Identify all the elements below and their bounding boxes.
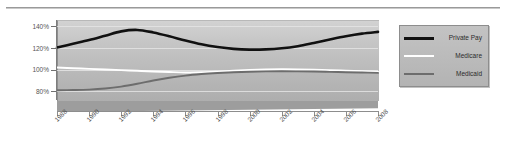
top-divider-rule [6,7,500,9]
chart-screenshot: 140%120%100%80% 198819901992199419961998… [0,0,506,150]
y-axis-tick-label: 120% [3,45,49,52]
private-pay-swatch [404,37,434,40]
legend-item-medicare: Medicare [404,50,484,62]
series-line-private-pay [57,30,378,50]
y-axis-tick-label: 140% [3,23,49,30]
y-axis-tick [51,48,56,49]
y-axis-tick-label: 80% [3,88,49,95]
x-axis-tick-label: 1988 [53,108,68,123]
plot-area [57,20,378,100]
chart-legend: Private Pay Medicare Medicaid [399,25,489,87]
line-chart-figure: 140%120%100%80% 198819901992199419961998… [0,10,506,150]
y-axis-tick [51,91,56,92]
legend-item-private-pay: Private Pay [404,32,484,44]
medicare-swatch [404,55,434,57]
y-axis [56,20,57,100]
legend-item-medicaid: Medicaid [404,68,484,80]
legend-label-private-pay: Private Pay [434,34,484,42]
legend-label-medicare: Medicare [434,52,484,60]
series-line-medicaid [57,71,378,90]
y-axis-labels: 140%120%100%80% [0,20,49,100]
medicaid-swatch [404,73,434,75]
y-axis-tick [51,26,56,27]
y-axis-tick-label: 100% [3,66,49,73]
legend-label-medicaid: Medicaid [434,70,484,78]
series-lines [57,20,378,100]
y-axis-tick [51,70,56,71]
